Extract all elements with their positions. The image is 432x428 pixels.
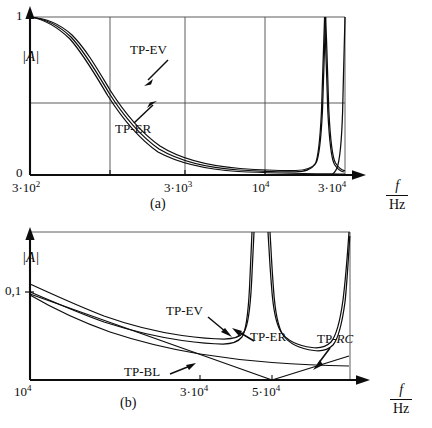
panel-a-x-arrowhead bbox=[352, 170, 366, 180]
panel-a-x-axis-label: f Hz bbox=[386, 178, 408, 213]
panel-a-xtick-3: 3·104 bbox=[318, 180, 346, 194]
panel-a-xtick-2: 104 bbox=[252, 180, 270, 194]
panel-b-xtick-2: 5·104 bbox=[252, 384, 280, 398]
panel-b-y-axis-label: |A| bbox=[22, 250, 39, 265]
panel-b-xtick-1: 3·104 bbox=[180, 384, 208, 398]
panel-b-arrow-tp-er bbox=[230, 327, 260, 349]
panel-a-right-rise bbox=[332, 17, 346, 175]
panel-b-arrow-tp-bl bbox=[168, 362, 200, 380]
curve-tp-er-mirror bbox=[325, 17, 344, 172]
figure-frequency-response: |A| 1 0 3·102 3·103 104 3·104 f Hz TP-EV… bbox=[0, 0, 432, 428]
panel-a-xtick-0: 3·102 bbox=[12, 180, 40, 194]
panel-b-label-tp-rc: TP-RC bbox=[317, 332, 353, 345]
curve-tp-er bbox=[30, 17, 325, 172]
curve-tp-ev-mirror bbox=[326, 17, 345, 171]
panel-b-x-axis-label: f Hz bbox=[390, 382, 412, 417]
panel-b-label-tp-bl: TP-BL bbox=[124, 365, 160, 378]
panel-b-x-axis-den: Hz bbox=[390, 401, 412, 417]
panel-b-label-tp-ev: TP-EV bbox=[166, 304, 203, 317]
panel-b-frac-bar bbox=[390, 399, 412, 400]
panel-b-label-tp-rc-italic: RC bbox=[337, 331, 354, 346]
panel-b-label-tp-rc-prefix: TP- bbox=[317, 331, 337, 346]
panel-b-arrow-tp-rc bbox=[310, 346, 338, 372]
panel-b-ytick-0: 0,1 bbox=[5, 284, 21, 297]
panel-a-plot bbox=[0, 0, 432, 215]
panel-b-x-axis-num: f bbox=[390, 382, 412, 398]
panel-a-ytick-1: 1 bbox=[16, 9, 23, 22]
panel-a-x-axis-num: f bbox=[386, 178, 408, 194]
panel-a-axes bbox=[30, 13, 358, 175]
panel-b-xtick-0: 104 bbox=[14, 384, 32, 398]
panel-b-x-arrowhead bbox=[356, 375, 370, 385]
panel-a-label-tp-ev: TP-EV bbox=[130, 43, 167, 56]
panel-b-label: (b) bbox=[120, 396, 136, 410]
panel-a-arrow-tp-ev bbox=[140, 58, 180, 88]
panel-a-frac-bar bbox=[386, 195, 408, 196]
panel-b-y-arrowhead bbox=[25, 227, 34, 240]
panel-a-label: (a) bbox=[150, 197, 166, 211]
panel-a-curves bbox=[30, 17, 345, 174]
panel-a-xtick-1: 3·103 bbox=[164, 180, 192, 194]
panel-a-ytick-0: 0 bbox=[16, 166, 23, 179]
panel-a-arrow-tp-er bbox=[128, 99, 168, 129]
panel-a-x-axis-den: Hz bbox=[386, 197, 408, 213]
panel-a-y-axis-label: |A| bbox=[22, 49, 39, 64]
